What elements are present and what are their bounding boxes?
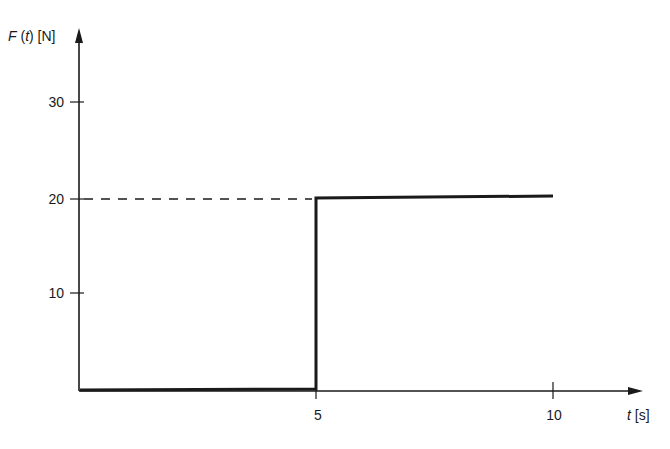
y-title-close: ) [N] xyxy=(29,28,55,44)
x-axis-arrow-icon xyxy=(628,387,643,395)
x-tick-label-10: 10 xyxy=(546,407,562,423)
force-step-series xyxy=(80,196,553,390)
y-tick-label-10: 10 xyxy=(48,285,64,301)
x-title-unit: [s] xyxy=(631,407,650,423)
x-tick-label-5: 5 xyxy=(314,407,322,423)
y-axis-title: F (t) [N] xyxy=(8,28,55,44)
step-force-chart: 30 20 10 F (t) [N] 5 10 t [s] xyxy=(0,0,670,449)
y-tick-label-30: 30 xyxy=(48,94,64,110)
y-tick-label-20: 20 xyxy=(48,191,64,207)
y-axis-arrow-icon xyxy=(75,28,83,43)
x-axis-title: t [s] xyxy=(627,407,650,423)
y-title-open: ( xyxy=(17,28,26,44)
y-axis: 30 20 10 F (t) [N] xyxy=(8,28,84,391)
